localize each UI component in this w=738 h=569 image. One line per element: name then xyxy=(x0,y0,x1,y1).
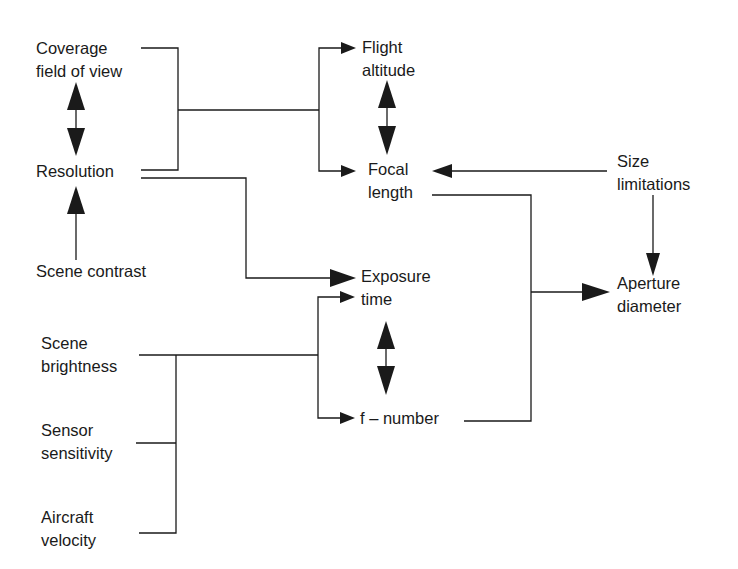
velocity-connector xyxy=(139,355,176,533)
node-focal-length-line1: Focal xyxy=(368,158,413,181)
node-size-limitations-line1: Size xyxy=(617,150,690,173)
node-exposure-time-line2: time xyxy=(361,288,431,311)
node-flight-altitude-line2: altitude xyxy=(362,59,415,82)
arrow-focal-icon xyxy=(341,165,356,177)
node-focal-length: Focal length xyxy=(368,158,413,204)
node-scene-contrast: Scene contrast xyxy=(36,260,146,283)
node-aperture-diameter: Aperture diameter xyxy=(617,272,681,318)
node-coverage: Coverage field of view xyxy=(36,37,122,83)
time-fnumber-fork xyxy=(318,297,340,418)
node-flight-altitude: Flight altitude xyxy=(362,36,415,82)
arrow-aperture-icon xyxy=(582,283,610,301)
arrow-resolution-down-icon xyxy=(67,128,85,156)
node-scene-brightness: Scene brightness xyxy=(41,332,117,378)
node-f-number: f – number xyxy=(360,407,439,430)
node-aircraft-velocity-line2: velocity xyxy=(41,529,96,552)
arrow-flight-icon xyxy=(341,42,356,54)
arrow-fnumber-down-icon xyxy=(377,366,395,395)
coverage-connector xyxy=(141,48,178,170)
arrow-time-icon xyxy=(340,291,355,303)
node-aircraft-velocity-line1: Aircraft xyxy=(41,506,96,529)
arrow-exposure-up-icon xyxy=(377,321,395,349)
arrow-contrast-up-icon xyxy=(67,186,85,214)
node-exposure-time: Exposure time xyxy=(361,265,431,311)
node-sensor-sensitivity-line2: sensitivity xyxy=(41,442,113,465)
arrow-exposure-icon xyxy=(330,269,356,287)
node-scene-brightness-line2: brightness xyxy=(41,355,117,378)
arrow-size-to-focal-icon xyxy=(432,164,452,178)
node-aperture-diameter-line2: diameter xyxy=(617,295,681,318)
node-coverage-line2: field of view xyxy=(36,60,122,83)
arrow-flight-up-icon xyxy=(378,80,396,108)
node-coverage-line1: Coverage xyxy=(36,37,122,60)
node-focal-length-line2: length xyxy=(368,181,413,204)
node-exposure-time-line1: Exposure xyxy=(361,265,431,288)
node-aircraft-velocity: Aircraft velocity xyxy=(41,506,96,552)
node-resolution: Resolution xyxy=(36,160,114,183)
node-scene-contrast-line1: Scene contrast xyxy=(36,260,146,283)
resolution-to-exposure-line xyxy=(141,178,335,278)
arrow-focal-down-icon xyxy=(378,126,396,155)
node-scene-brightness-line1: Scene xyxy=(41,332,117,355)
node-size-limitations: Size limitations xyxy=(617,150,690,196)
node-sensor-sensitivity-line1: Sensor xyxy=(41,419,113,442)
flight-focal-fork xyxy=(319,48,341,171)
arrow-coverage-up-icon xyxy=(67,82,85,110)
node-size-limitations-line2: limitations xyxy=(617,173,690,196)
node-f-number-line1: f – number xyxy=(360,407,439,430)
arrow-fnumber-icon xyxy=(340,412,355,424)
node-sensor-sensitivity: Sensor sensitivity xyxy=(41,419,113,465)
node-aperture-diameter-line1: Aperture xyxy=(617,272,681,295)
node-flight-altitude-line1: Flight xyxy=(362,36,415,59)
node-resolution-line1: Resolution xyxy=(36,160,114,183)
focal-to-aperture-line xyxy=(432,195,531,421)
